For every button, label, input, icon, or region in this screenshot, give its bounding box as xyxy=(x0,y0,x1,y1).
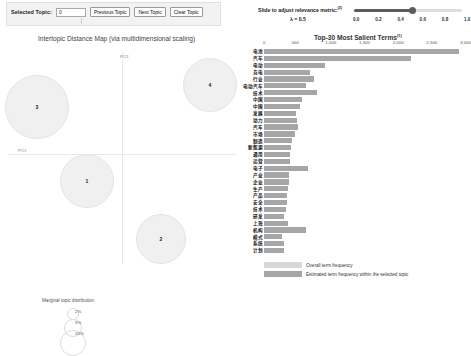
salient-term-label[interactable]: 产品 xyxy=(253,192,263,198)
salient-term-row[interactable]: 新能源 xyxy=(264,145,466,150)
salient-term-label[interactable]: 充电 xyxy=(253,69,263,75)
marginal-size-label-5: 5% xyxy=(75,320,81,325)
salient-term-row[interactable]: 技术 xyxy=(264,90,466,95)
salient-term-label[interactable]: 汽车 xyxy=(253,55,263,61)
salient-term-label[interactable]: 产业 xyxy=(253,172,263,178)
topic-circle-4[interactable]: 4 xyxy=(183,58,237,112)
salient-term-label[interactable]: 计划 xyxy=(253,247,263,253)
next-topic-button[interactable]: Next Topic xyxy=(134,7,165,17)
salient-term-label[interactable]: 中国 xyxy=(253,103,263,109)
salient-terms-footnote-marker: (1) xyxy=(397,33,402,38)
clear-topic-button[interactable]: Clear Topic xyxy=(170,7,203,17)
bar-topic-frequency xyxy=(264,186,288,191)
topic-circle-1[interactable]: 1 xyxy=(60,154,114,208)
salient-term-row[interactable]: 机构 xyxy=(264,227,466,232)
salient-term-label[interactable]: 系统 xyxy=(253,240,263,246)
slider-tick-1-0: 1.0 xyxy=(464,17,470,22)
salient-term-row[interactable]: 产品 xyxy=(264,193,466,198)
salient-term-row[interactable]: 模式 xyxy=(264,234,466,239)
salient-term-label[interactable]: 模式 xyxy=(253,234,263,240)
salient-term-label[interactable]: 上海 xyxy=(253,220,263,226)
salient-term-label[interactable]: 企业 xyxy=(253,179,263,185)
salient-terms-barchart[interactable]: 05001,0001,5002,0002,5003,000 电池汽车电动充电行业… xyxy=(246,40,470,304)
bar-topic-frequency xyxy=(264,138,292,143)
topic-circle-2[interactable]: 2 xyxy=(136,214,186,264)
salient-term-label[interactable]: 电子 xyxy=(253,165,263,171)
lambda-value-text: λ = 0.5 xyxy=(290,16,306,22)
salient-term-row[interactable]: 计划 xyxy=(264,248,466,253)
salient-term-row[interactable]: 研发 xyxy=(264,214,466,219)
salient-term-label[interactable]: 动力 xyxy=(253,117,263,123)
topic-circle-label: 1 xyxy=(86,178,89,184)
salient-term-label[interactable]: 运营 xyxy=(253,158,263,164)
salient-term-row[interactable]: 上海 xyxy=(264,221,466,226)
salient-term-row[interactable]: 生产 xyxy=(264,186,466,191)
barchart-legend: Overall term frequencyEstimated term fre… xyxy=(264,262,464,284)
salient-term-row[interactable]: 安全 xyxy=(264,200,466,205)
topic-circle-3[interactable]: 3 xyxy=(5,75,69,139)
bar-topic-frequency xyxy=(264,172,289,177)
salient-term-row[interactable]: 通用 xyxy=(264,152,466,157)
barchart-legend-item: Estimated term frequency within the sele… xyxy=(264,271,408,277)
salient-term-row[interactable]: 产业 xyxy=(264,172,466,177)
bar-topic-frequency xyxy=(264,83,306,88)
salient-term-label[interactable]: 中国 xyxy=(253,96,263,102)
salient-term-label[interactable]: 新能源 xyxy=(248,144,263,150)
salient-term-row[interactable]: 市场 xyxy=(264,131,466,136)
relevance-slider-text: Slide to adjust relevance metric: xyxy=(258,7,338,13)
relevance-slider-track[interactable] xyxy=(354,9,462,12)
intertopic-distance-map[interactable]: PC2 PC1 3412 Marginal topic distribution… xyxy=(0,46,244,304)
bar-topic-frequency xyxy=(264,227,306,232)
salient-term-label[interactable]: 市场 xyxy=(253,131,263,137)
bar-topic-frequency xyxy=(264,248,284,253)
salient-term-label[interactable]: 发展 xyxy=(253,110,263,116)
salient-term-label[interactable]: 电动 xyxy=(253,62,263,68)
bar-topic-frequency xyxy=(264,104,300,109)
bar-topic-frequency xyxy=(264,207,286,212)
bar-topic-frequency xyxy=(264,200,287,205)
selected-topic-input[interactable] xyxy=(56,8,86,17)
slider-tick-0-6: 0.6 xyxy=(420,17,426,22)
salient-term-row[interactable]: 电池 xyxy=(264,49,466,54)
salient-term-row[interactable]: 汽车 xyxy=(264,124,466,129)
salient-term-row[interactable]: 电动 xyxy=(264,63,466,68)
relevance-slider-handle[interactable] xyxy=(409,7,416,14)
salient-term-row[interactable]: 电子 xyxy=(264,166,466,171)
previous-topic-button[interactable]: Previous Topic xyxy=(90,7,130,17)
salient-term-label[interactable]: 机构 xyxy=(253,227,263,233)
topic-circle-label: 4 xyxy=(209,82,212,88)
salient-term-label[interactable]: 安全 xyxy=(253,199,263,205)
salient-term-row[interactable]: 企业 xyxy=(264,179,466,184)
salient-term-label[interactable]: 生产 xyxy=(253,186,263,192)
salient-term-row[interactable]: 发展 xyxy=(264,111,466,116)
salient-term-row[interactable]: 中国 xyxy=(264,97,466,102)
salient-term-label[interactable]: 技术 xyxy=(253,206,263,212)
salient-term-label[interactable]: 研发 xyxy=(253,213,263,219)
salient-term-row[interactable]: 动力 xyxy=(264,118,466,123)
salient-term-row[interactable]: 电动汽车 xyxy=(264,83,466,88)
salient-term-row[interactable]: 系统 xyxy=(264,241,466,246)
salient-term-label[interactable]: 制造 xyxy=(253,138,263,144)
salient-term-row[interactable]: 充电 xyxy=(264,70,466,75)
salient-term-row[interactable]: 行业 xyxy=(264,76,466,81)
y-axis-line xyxy=(122,52,123,264)
bar-topic-frequency xyxy=(264,63,325,68)
salient-term-label[interactable]: 汽车 xyxy=(253,124,263,130)
barchart-xtick-3000: 3,000 xyxy=(460,40,471,45)
axis-label-pc1: PC1 xyxy=(18,148,27,153)
salient-term-label[interactable]: 电池 xyxy=(253,48,263,54)
salient-term-row[interactable]: 制造 xyxy=(264,138,466,143)
salient-term-row[interactable]: 中国 xyxy=(264,104,466,109)
salient-term-label[interactable]: 电动汽车 xyxy=(243,83,263,89)
bar-topic-frequency xyxy=(264,241,284,246)
salient-term-label[interactable]: 通用 xyxy=(253,151,263,157)
barchart-legend-swatch xyxy=(264,271,302,276)
salient-term-row[interactable]: 汽车 xyxy=(264,56,466,61)
salient-term-row[interactable]: 技术 xyxy=(264,207,466,212)
salient-term-label[interactable]: 行业 xyxy=(253,76,263,82)
salient-term-label[interactable]: 技术 xyxy=(253,90,263,96)
salient-term-row[interactable]: 运营 xyxy=(264,159,466,164)
bar-topic-frequency xyxy=(264,152,290,157)
barchart-legend-label: Overall term frequency xyxy=(306,263,352,268)
toolbar-divider xyxy=(81,18,82,24)
